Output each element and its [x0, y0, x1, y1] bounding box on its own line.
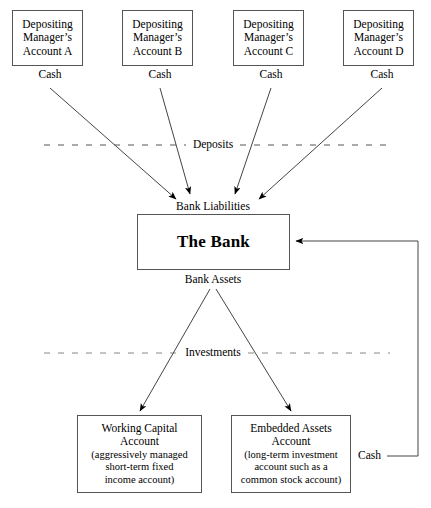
flow-line-account-a: [50, 88, 176, 199]
embedded-assets-sub-line-1: (long-term investment: [244, 449, 338, 461]
account-d-line-1: Depositing: [353, 18, 403, 32]
account-box-c[interactable]: Depositing Manager’s Account C: [233, 10, 304, 66]
cash-label-account-a: Cash: [37, 69, 64, 81]
working-capital-title-line-2: Account: [120, 435, 159, 449]
embedded-assets-sub-line-2: account such as a: [254, 461, 327, 473]
account-c-line-1: Depositing: [243, 18, 293, 32]
account-d-line-3: Account D: [353, 45, 403, 59]
cash-label-account-c: Cash: [258, 69, 285, 81]
account-b-line-2: Manager’s: [133, 31, 182, 45]
account-box-a[interactable]: Depositing Manager’s Account A: [12, 10, 83, 66]
cash-label-account-d: Cash: [369, 69, 396, 81]
working-capital-sub-line-1: (aggressively managed: [91, 449, 188, 461]
working-capital-sub-line-3: income account): [105, 474, 175, 486]
cash-label-account-b: Cash: [147, 69, 174, 81]
return-cash-label: Cash: [356, 450, 383, 462]
account-box-d[interactable]: Depositing Manager’s Account D: [343, 10, 414, 66]
deposits-divider-label: Deposits: [191, 139, 235, 151]
bank-liabilities-label: Bank Liabilities: [174, 201, 252, 213]
account-c-line-2: Manager’s: [244, 31, 293, 45]
account-b-line-3: Account B: [133, 45, 183, 59]
account-box-b[interactable]: Depositing Manager’s Account B: [122, 10, 193, 66]
working-capital-title-line-1: Working Capital: [101, 422, 177, 436]
working-capital-sub-line-2: short-term fixed: [106, 461, 174, 473]
flow-line-account-c: [235, 88, 271, 194]
embedded-assets-sub-line-3: common stock account): [241, 474, 341, 486]
account-b-line-1: Depositing: [132, 18, 182, 32]
account-a-line-2: Manager’s: [23, 31, 72, 45]
embedded-assets-account-box[interactable]: Embedded Assets Account (long-term inves…: [231, 415, 351, 493]
embedded-assets-title-line-2: Account: [272, 435, 311, 449]
bank-assets-label: Bank Assets: [183, 274, 244, 286]
account-a-line-1: Depositing: [22, 18, 72, 32]
account-a-line-3: Account A: [23, 45, 73, 59]
the-bank-label: The Bank: [177, 232, 250, 252]
investments-divider-label: Investments: [183, 347, 243, 359]
account-d-line-2: Manager’s: [354, 31, 403, 45]
flow-line-account-d: [259, 88, 382, 199]
account-c-line-3: Account C: [244, 45, 294, 59]
the-bank-box[interactable]: The Bank: [137, 214, 290, 270]
flow-line-account-b: [160, 88, 190, 194]
bank-flow-diagram: Depositing Manager’s Account A Cash Depo…: [0, 0, 431, 508]
embedded-assets-title-line-1: Embedded Assets: [250, 422, 331, 436]
working-capital-account-box[interactable]: Working Capital Account (aggressively ma…: [77, 415, 202, 493]
